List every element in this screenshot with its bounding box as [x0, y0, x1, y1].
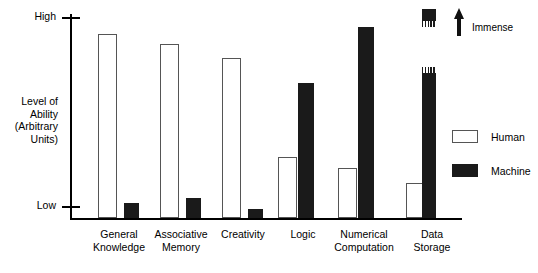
bar-group-associative-memory: [155, 0, 207, 218]
legend-item-human: Human: [452, 130, 525, 143]
y-axis-title-line-1: Level of: [0, 95, 58, 108]
legend: Human Machine: [452, 130, 538, 190]
y-tick-label-low: Low: [10, 200, 56, 211]
y-axis-line: [70, 14, 72, 220]
bar-chart: High Low Level of Ability (Arbitrary Uni…: [0, 0, 538, 273]
bar-machine-numerical-computation: [358, 27, 374, 218]
bar-human-creativity: [222, 58, 241, 218]
up-arrow-icon: [452, 8, 466, 36]
broken-axis-jagged-edge-icon: [422, 21, 436, 27]
bar-machine-general-knowledge: [124, 203, 139, 218]
y-axis-title: Level of Ability (Arbitrary Units): [0, 95, 58, 145]
bar-machine-associative-memory: [186, 198, 201, 218]
open-square-icon: [452, 130, 478, 143]
legend-label-human: Human: [491, 131, 525, 143]
bar-human-associative-memory: [160, 44, 179, 218]
x-label-line-2: Storage: [388, 241, 476, 254]
y-tick-high: [62, 17, 80, 19]
bar-human-numerical-computation: [338, 168, 357, 218]
bar-group-numerical-computation: [337, 0, 389, 218]
y-axis-title-line-3: (Arbitrary: [0, 120, 58, 133]
x-label-line-2: Memory: [137, 241, 225, 254]
immense-bar-stub: [422, 9, 436, 26]
y-tick-label-high: High: [10, 11, 56, 22]
bar-human-logic: [278, 157, 297, 218]
bar-group-general-knowledge: [93, 0, 145, 218]
filled-square-icon: [452, 164, 478, 177]
legend-item-machine: Machine: [452, 164, 531, 177]
bar-machine-creativity: [248, 209, 263, 218]
bar-machine-logic: [298, 83, 314, 218]
y-axis-title-line-2: Ability: [0, 108, 58, 121]
bar-group-logic: [277, 0, 329, 218]
immense-annotation-label: Immense: [472, 22, 513, 33]
bar-machine-data-storage: [422, 68, 436, 218]
x-axis-line: [70, 218, 462, 220]
bar-human-general-knowledge: [98, 34, 117, 218]
x-label-data-storage: Data Storage: [388, 228, 476, 253]
y-tick-low: [62, 206, 80, 208]
y-axis-title-line-4: Units): [0, 133, 58, 146]
bar-group-creativity: [217, 0, 269, 218]
broken-axis-jagged-edge-icon: [422, 67, 436, 73]
bar-group-data-storage: [405, 0, 457, 218]
legend-label-machine: Machine: [491, 165, 531, 177]
x-label-line-1: Data: [388, 228, 476, 241]
